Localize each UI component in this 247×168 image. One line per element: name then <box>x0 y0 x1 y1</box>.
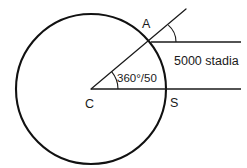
angle-arc-at-point-a <box>168 25 176 42</box>
label-point-s: S <box>170 96 178 110</box>
label-angle-value: 360°/50 <box>117 72 157 84</box>
eratosthenes-diagram: A C S 360°/50 5000 stadia <box>0 0 247 168</box>
label-point-a: A <box>142 17 151 31</box>
figure-canvas: A C S 360°/50 5000 stadia <box>0 0 247 168</box>
label-distance-value: 5000 stadia <box>174 54 239 68</box>
label-point-c: C <box>85 97 94 111</box>
